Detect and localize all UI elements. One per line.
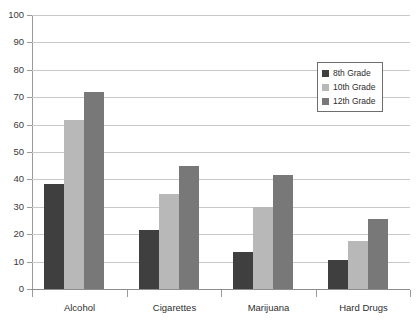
x-tick-mark — [221, 290, 222, 297]
bar — [233, 252, 253, 289]
legend-label: 10th Grade — [333, 83, 376, 92]
y-tick-label: 70 — [0, 92, 24, 102]
bar — [368, 219, 388, 289]
bar — [64, 120, 84, 289]
y-tick-label: 20 — [0, 229, 24, 239]
y-tick-label: 90 — [0, 37, 24, 47]
bar — [159, 194, 179, 289]
bar — [348, 241, 368, 289]
legend-label: 8th Grade — [333, 69, 371, 78]
legend-swatch-icon — [322, 98, 329, 105]
chart-legend: 8th Grade10th Grade12th Grade — [317, 62, 383, 112]
x-category-label: Alcohol — [32, 303, 127, 313]
legend-item: 10th Grade — [322, 80, 378, 94]
y-tick-label: 0 — [0, 284, 24, 294]
y-tick-label: 60 — [0, 120, 24, 130]
y-tick-label: 40 — [0, 174, 24, 184]
legend-swatch-icon — [322, 84, 329, 91]
x-tick-mark — [410, 290, 411, 297]
x-tick-mark — [32, 290, 33, 297]
plot-area — [32, 15, 410, 289]
legend-label: 12th Grade — [333, 97, 376, 106]
bar-chart: 1009080706050403020100 AlcoholCigarettes… — [0, 0, 420, 331]
x-tick-mark — [127, 290, 128, 297]
legend-swatch-icon — [322, 70, 329, 77]
y-tick-label: 30 — [0, 202, 24, 212]
x-category-label: Cigarettes — [127, 303, 222, 313]
legend-item: 12th Grade — [322, 94, 378, 108]
bar — [328, 260, 348, 289]
x-tick-mark — [316, 290, 317, 297]
x-category-label: Marijuana — [221, 303, 316, 313]
y-tick-label: 100 — [0, 10, 24, 20]
y-tick-label: 50 — [0, 147, 24, 157]
bar — [253, 207, 273, 289]
bar — [273, 175, 293, 289]
bar — [139, 230, 159, 289]
bar — [179, 166, 199, 289]
y-tick-label: 80 — [0, 65, 24, 75]
y-tick-label: 10 — [0, 257, 24, 267]
legend-item: 8th Grade — [322, 66, 378, 80]
x-category-label: Hard Drugs — [316, 303, 411, 313]
bar — [44, 184, 64, 289]
bar — [84, 92, 104, 289]
